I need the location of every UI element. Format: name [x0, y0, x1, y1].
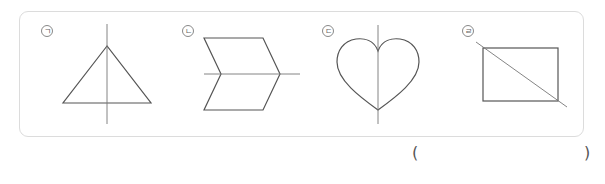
- chevron-figure: [204, 38, 300, 110]
- answer-open-paren: (: [412, 143, 418, 162]
- diagonal-line: [476, 42, 567, 107]
- answer-blank[interactable]: [422, 143, 592, 165]
- heart-figure: [337, 25, 419, 124]
- rectangle-figure: [476, 42, 567, 107]
- answer-close-paren: ): [584, 143, 590, 162]
- triangle-figure: [63, 24, 151, 124]
